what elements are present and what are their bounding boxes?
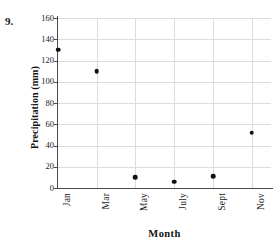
gridline-horizontal <box>58 61 271 62</box>
y-tick-label: 20 <box>24 162 54 171</box>
y-tick-label: 100 <box>24 77 54 86</box>
gridline-vertical <box>97 18 98 188</box>
y-tick-mark <box>54 146 57 147</box>
y-tick-label: 80 <box>24 99 54 108</box>
data-point <box>94 69 99 74</box>
data-point <box>172 179 177 184</box>
y-tick-mark <box>54 61 57 62</box>
data-point <box>133 175 138 180</box>
gridline-horizontal <box>58 18 271 19</box>
x-tick-label: Mar <box>101 193 111 209</box>
problem-number-label: 9. <box>5 15 13 27</box>
y-tick-label: 160 <box>24 14 54 23</box>
data-point <box>211 174 216 179</box>
gridline-vertical <box>213 18 214 188</box>
cropped-header-text <box>8 0 128 4</box>
gridline-horizontal <box>58 124 271 125</box>
y-tick-label: 120 <box>24 56 54 65</box>
data-point <box>56 48 61 53</box>
y-tick-label: 40 <box>24 141 54 150</box>
y-tick-mark <box>54 18 57 19</box>
x-tick-label: July <box>178 193 188 210</box>
x-tick-label: Nov <box>256 193 266 210</box>
y-tick-mark <box>54 124 57 125</box>
gridline-horizontal <box>58 39 271 40</box>
x-tick-label: Jan <box>62 193 72 206</box>
y-tick-label: 0 <box>24 184 54 193</box>
x-axis-line <box>57 188 273 189</box>
y-tick-label: 140 <box>24 35 54 44</box>
gridline-horizontal <box>58 82 271 83</box>
y-tick-mark <box>54 188 57 189</box>
gridline-vertical <box>252 18 253 188</box>
gridline-vertical <box>174 18 175 188</box>
y-tick-label: 60 <box>24 120 54 129</box>
plot-area <box>58 18 271 188</box>
y-tick-mark <box>54 82 57 83</box>
figure-container: 9. Precipitation (mm) Month 020406080100… <box>0 0 279 248</box>
gridline-horizontal <box>58 167 271 168</box>
y-axis-ticks: 020406080100120140160 <box>22 18 54 188</box>
y-tick-mark <box>54 39 57 40</box>
x-tick-label: May <box>139 193 149 211</box>
gridline-horizontal <box>58 103 271 104</box>
y-tick-mark <box>54 167 57 168</box>
x-tick-label: Sept <box>217 193 227 211</box>
y-tick-mark <box>54 103 57 104</box>
gridline-vertical <box>135 18 136 188</box>
data-point <box>249 130 254 135</box>
gridline-horizontal <box>58 146 271 147</box>
x-axis-ticks: JanMarMayJulySeptNov <box>58 193 271 233</box>
